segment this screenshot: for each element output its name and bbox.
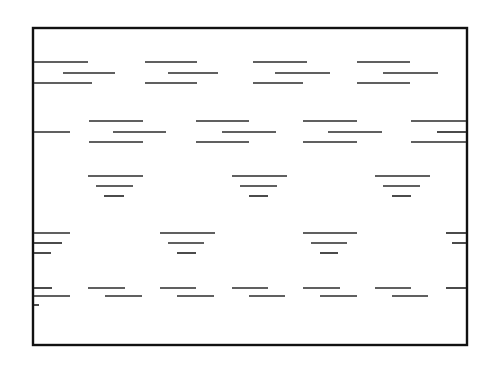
- line-pattern-figure: [0, 0, 498, 369]
- figure-root: [0, 0, 498, 369]
